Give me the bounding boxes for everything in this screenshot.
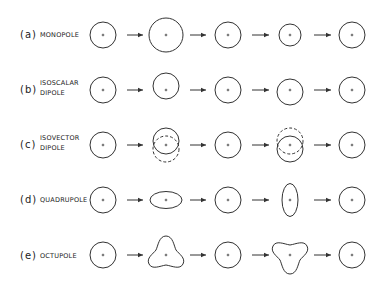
trefoil-down-shape (272, 243, 307, 274)
proton-distribution (277, 136, 303, 162)
row-b-isoscalar-dipole (90, 73, 365, 105)
trefoil-up-shape (148, 236, 183, 267)
neutron-distribution (277, 128, 303, 154)
mode-diagram (0, 0, 381, 286)
neutron-distribution (153, 136, 179, 162)
proton-distribution (153, 128, 179, 154)
